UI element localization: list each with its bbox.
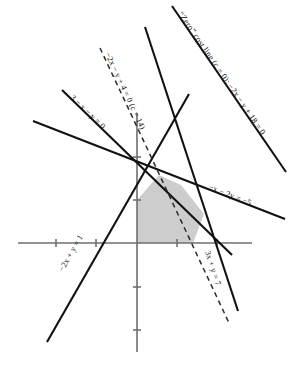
label-constraint-minus-2x-plus-y: −2x + y = 1 [57,233,85,273]
label-constraint-minus-x-minus-2y: −x − 2y = −5 [207,182,253,207]
lp-graph-figure: “Zero” cost line (c = 0); −2x − y + 18 =… [0,0,290,371]
label-constraint-3-minus-x-minus-y: 3 − x − y = 0 [69,93,108,131]
feasible-region [137,175,204,243]
label-dashed-cost-line: −2x − y + 4 = 0 (c = 14) [103,51,147,131]
lp-graph-svg: “Zero” cost line (c = 0); −2x − y + 18 =… [0,0,290,371]
label-zero-cost-line: “Zero” cost line (c = 0); −2x − y + 18 =… [176,10,267,137]
